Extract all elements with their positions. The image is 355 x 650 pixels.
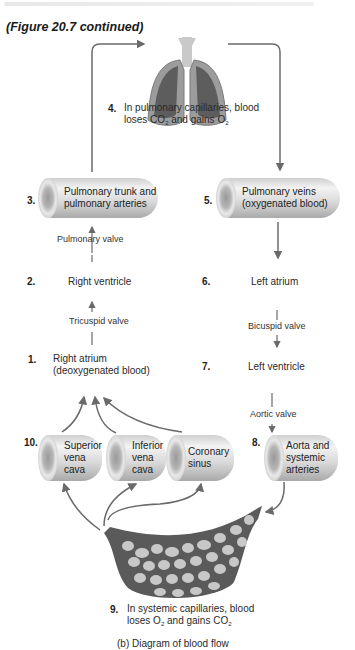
- step-4-label: In pulmonary capillaries, blood loses CO…: [124, 102, 259, 129]
- aortic-valve-label: Aortic valve: [250, 409, 297, 419]
- pulmonary-valve-label: Pulmonary valve: [57, 234, 124, 244]
- right-ventricle-label: Right ventricle: [68, 276, 131, 288]
- left-atrium-label: Left atrium: [251, 276, 298, 288]
- step-9-number: 9.: [110, 604, 118, 615]
- superior-vena-cava-vessel: Superiorvenacava: [40, 435, 102, 481]
- coronary-sinus-vessel: Coronarysinus: [168, 435, 234, 481]
- pulmonary-trunk-vessel: Pulmonary trunk andpulmonary arteries: [40, 178, 158, 218]
- left-ventricle-label: Left ventricle: [248, 361, 305, 373]
- step-3-number: 3.: [27, 195, 35, 206]
- aorta-vessel: Aorta andsystemicarteries: [266, 435, 338, 481]
- step-4-number: 4.: [108, 103, 116, 114]
- step-6-number: 6.: [202, 276, 210, 287]
- pulmonary-veins-vessel: Pulmonary veins(oxygenated blood): [218, 178, 340, 218]
- step-10-number: 10.: [24, 437, 38, 448]
- step-2-number: 2.: [27, 276, 35, 287]
- right-atrium-label: Right atrium(deoxygenated blood): [53, 353, 150, 377]
- step-1-number: 1.: [28, 354, 36, 365]
- step-7-number: 7.: [202, 361, 210, 372]
- step-5-number: 5.: [204, 195, 212, 206]
- bicuspid-valve-label: Bicuspid valve: [248, 321, 306, 331]
- systemic-capillary-bed: [104, 506, 262, 598]
- panel-caption: (b) Diagram of blood flow: [117, 638, 229, 650]
- step-8-number: 8.: [252, 437, 260, 448]
- step-9-label: In systemic capillaries, blood loses O2 …: [127, 603, 254, 630]
- tricuspid-valve-label: Tricuspid valve: [69, 316, 129, 326]
- inferior-vena-cava-vessel: Inferiorvenacava: [108, 435, 166, 481]
